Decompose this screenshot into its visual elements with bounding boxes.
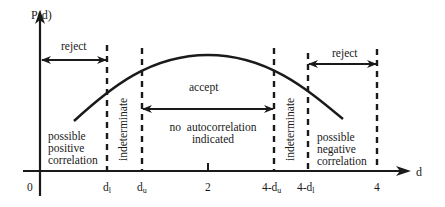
possible-negative-correlation-label: possible negative correlation	[317, 131, 367, 167]
axes	[23, 10, 411, 196]
tick-label-2: 2	[205, 181, 211, 193]
tick-label-4-du: 4-du	[262, 181, 281, 197]
tick-label-4-dl: 4-dl	[297, 181, 315, 197]
tick-label-4: 4	[374, 181, 380, 193]
reject-left-label: reject	[61, 40, 87, 52]
indeterminate-right-label: indeterminate	[284, 98, 296, 161]
no-autocorrelation-label: no autocorrelation indicated	[163, 121, 263, 145]
durbin-watson-diagram	[0, 0, 445, 207]
indeterminate-left-label: indeterminate	[117, 98, 129, 161]
accept-label: accept	[189, 81, 218, 93]
tick-label-du: du	[137, 181, 147, 197]
origin-label: 0	[27, 181, 33, 193]
possible-positive-correlation-label: possible positive correlation	[48, 130, 98, 166]
y-axis-label: P(d)	[31, 9, 52, 21]
tick-label-dl: dl	[103, 181, 111, 197]
x-axis-label: d	[416, 166, 422, 178]
reject-right-label: reject	[332, 47, 358, 59]
